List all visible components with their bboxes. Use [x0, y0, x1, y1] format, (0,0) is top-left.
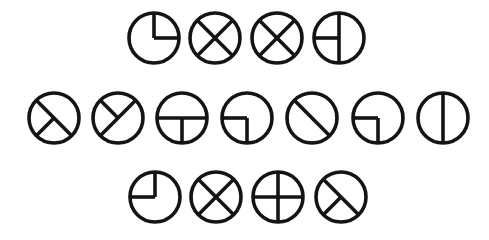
- circle-horizontal-with-lower-spoke-icon: [157, 93, 207, 143]
- circle-x-cross-icon: [191, 172, 241, 222]
- circle-single-diagonal-icon: [287, 93, 337, 143]
- glyph-diagram: [0, 0, 489, 240]
- circle-diagonal-with-lower-left-spoke-icon: [29, 93, 79, 143]
- circle-quarter-lower-left-icon: [222, 93, 272, 143]
- glyph-stroke: [100, 100, 118, 118]
- circle-diagonal-with-lower-left-spoke-icon: [316, 172, 366, 222]
- circle-plus-cross-icon: [253, 172, 303, 222]
- glyph-stroke: [294, 100, 329, 135]
- circle-x-cross-icon: [190, 13, 240, 63]
- circle-quarter-upper-left-icon: [130, 172, 180, 222]
- glyph-canvas: [0, 0, 489, 240]
- circle-quarter-lower-left-icon: [353, 93, 403, 143]
- circle-vertical-line-icon: [418, 93, 468, 143]
- circle-quarter-upper-right-icon: [129, 13, 179, 63]
- circle-vertical-with-left-half-bar-icon: [314, 13, 364, 63]
- circle-diagonal-with-upper-left-spoke-icon: [93, 93, 143, 143]
- glyph-stroke: [36, 118, 54, 136]
- glyph-stroke: [323, 197, 341, 215]
- circle-x-cross-icon: [252, 13, 302, 63]
